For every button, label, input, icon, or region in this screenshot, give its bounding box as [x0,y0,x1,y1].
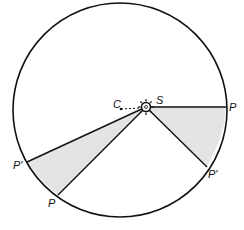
label-p-left: P [48,197,56,209]
label-p-right: P [229,101,237,113]
dashed-line-c-s [121,108,140,109]
label-p-prime-left: P' [13,159,23,171]
orbit-diagram: C S P P' P' P [0,0,244,230]
label-c: C [113,98,121,110]
shaded-sector-right [146,107,226,167]
sun-icon [138,99,154,115]
label-s: S [156,94,164,106]
shaded-sector-left [27,107,146,195]
label-p-prime-right: P' [208,168,218,180]
